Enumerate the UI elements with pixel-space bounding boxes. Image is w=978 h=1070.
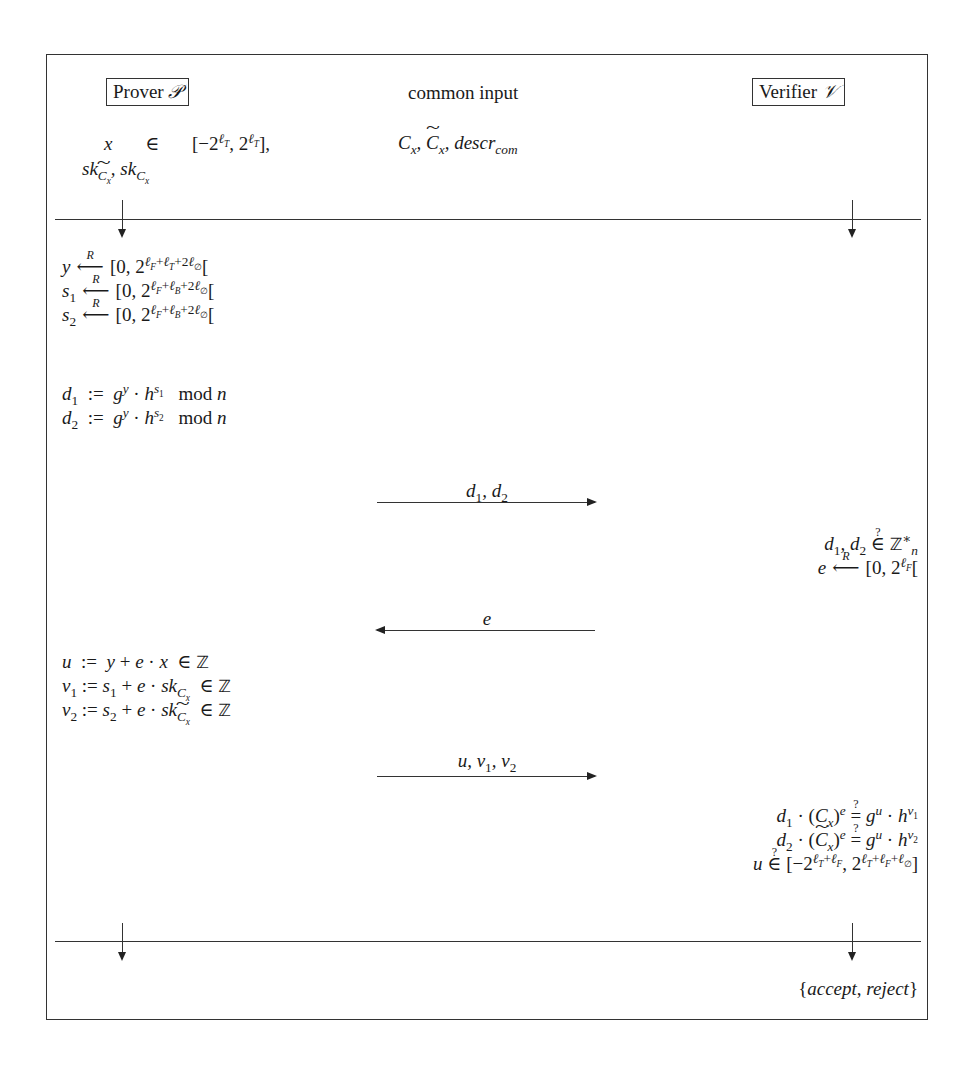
prover-input-keys: skCx, skCx	[82, 158, 149, 180]
header-divider	[55, 219, 921, 220]
compute-v1: v1 := s1 + e · skCx ∈ ℤ	[62, 674, 231, 698]
message-1-arrow	[377, 502, 595, 503]
prover-input-x: x ∈ [−2ℓT, 2ℓT],	[104, 132, 270, 155]
prover-label: Prover	[113, 81, 164, 102]
prover-timeline-arrow-bottom	[122, 923, 123, 959]
verifier-output: {accept, reject}	[798, 978, 918, 1000]
verifier-timeline-arrow-top	[852, 200, 853, 236]
common-input-values: Cx, Cx, descrcom	[398, 132, 518, 154]
prover-label-box: Prover 𝒫	[106, 78, 189, 106]
verifier-symbol: 𝒱	[822, 80, 838, 102]
output-reject: reject	[866, 978, 909, 999]
message-1-label: d1, d2	[377, 480, 597, 502]
prover-responses: u := y + e · x ∈ ℤ v1 := s1 + e · skCx ∈…	[62, 650, 231, 722]
prover-commitments: d1 := gy · hs1 mod n d2 := gy · hs2 mod …	[62, 382, 227, 430]
compute-d1: d1 := gy · hs1 mod n	[62, 382, 227, 406]
check-d1-equation: d1 · (Cx)e ?= gu · hv1	[753, 804, 918, 828]
message-3-label: u, v1, v2	[377, 750, 597, 772]
verifier-timeline-arrow-bottom	[852, 923, 853, 959]
compute-v2: v2 := s2 + e · skCx ∈ ℤ	[62, 698, 231, 722]
prover-random-choices: y R⟵ [0, 2ℓF+ℓT+2ℓ∅[ s1 R⟵ [0, 2ℓF+ℓB+2ℓ…	[62, 255, 214, 327]
prover-timeline-arrow-top	[122, 200, 123, 236]
choose-e: e R⟵ [0, 2ℓF[	[818, 556, 918, 580]
verifier-check-and-challenge: d1, d2 ?∈ ℤ∗n e R⟵ [0, 2ℓF[	[818, 532, 918, 580]
message-2-arrow	[377, 630, 595, 631]
output-accept: accept	[807, 978, 857, 999]
footer-divider	[55, 941, 921, 942]
compute-d2: d2 := gy · hs2 mod n	[62, 406, 227, 430]
compute-u: u := y + e · x ∈ ℤ	[62, 650, 231, 674]
verifier-label-box: Verifier 𝒱	[752, 78, 845, 106]
choose-s2: s2 R⟵ [0, 2ℓF+ℓB+2ℓ∅[	[62, 303, 214, 327]
verifier-label: Verifier	[759, 81, 817, 102]
check-u-range: u ?∈ [−2ℓT+ℓF, 2ℓT+ℓF+ℓ∅]	[753, 852, 918, 876]
prover-symbol: 𝒫	[168, 80, 182, 102]
message-2-label: e	[377, 608, 597, 630]
verifier-final-checks: d1 · (Cx)e ?= gu · hv1 d2 · (Cx)e ?= gu …	[753, 804, 918, 876]
message-3-arrow	[377, 776, 595, 777]
common-input-label: common input	[408, 82, 518, 104]
